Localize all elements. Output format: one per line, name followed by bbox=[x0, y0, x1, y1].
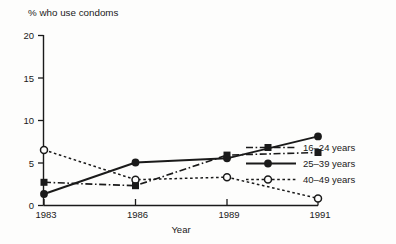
legend-label: 16–24 years bbox=[303, 142, 356, 153]
legend-marker-circle-icon bbox=[264, 160, 272, 168]
legend-marker-open-circle-icon bbox=[265, 176, 272, 183]
x-tick-labels: 1983 1986 1989 1991 bbox=[35, 209, 330, 220]
legend-label: 25–39 years bbox=[303, 158, 356, 169]
legend-item-40-49-years[interactable]: 40–49 years bbox=[246, 174, 356, 185]
y-tick-label: 0 bbox=[29, 200, 34, 211]
x-axis-label: Year bbox=[171, 224, 190, 235]
x-tick-label: 1983 bbox=[35, 209, 56, 220]
data-point bbox=[132, 182, 139, 189]
y-tick-label: 5 bbox=[29, 158, 34, 169]
x-tick-label: 1991 bbox=[309, 209, 330, 220]
chart-legend: 16–24 years 25–39 years 40–49 years bbox=[246, 142, 356, 185]
x-tick-label: 1989 bbox=[218, 209, 239, 220]
line-chart-canvas: 20 15 10 5 0 1983 1986 1989 1991 % who u… bbox=[0, 0, 396, 244]
y-tick-label: 10 bbox=[23, 115, 34, 126]
data-point bbox=[132, 159, 140, 167]
markers-40-49-years bbox=[41, 146, 322, 202]
series-25-39-years bbox=[44, 136, 318, 194]
data-point bbox=[224, 174, 231, 181]
data-point bbox=[40, 190, 48, 198]
data-point bbox=[315, 195, 322, 202]
legend-label: 40–49 years bbox=[303, 174, 356, 185]
x-axis-ticks bbox=[44, 199, 318, 206]
series-line-40-49-years bbox=[44, 150, 318, 199]
y-tick-label: 20 bbox=[23, 30, 34, 41]
data-point bbox=[223, 154, 231, 162]
data-point bbox=[314, 133, 322, 141]
data-point bbox=[41, 179, 48, 186]
data-point bbox=[132, 176, 139, 183]
series-40-49-years bbox=[44, 150, 318, 199]
markers-25-39-years bbox=[40, 133, 322, 198]
legend-item-16-24-years[interactable]: 16–24 years bbox=[246, 142, 356, 153]
axes-group bbox=[38, 35, 318, 206]
chart-title: % who use condoms bbox=[28, 7, 118, 18]
legend-marker-square-icon bbox=[265, 144, 272, 151]
y-tick-labels: 20 15 10 5 0 bbox=[23, 30, 34, 211]
series-line-25-39-years bbox=[44, 136, 318, 194]
y-tick-label: 15 bbox=[23, 73, 34, 84]
chart-figure: 20 15 10 5 0 1983 1986 1989 1991 % who u… bbox=[0, 0, 396, 244]
legend-item-25-39-years[interactable]: 25–39 years bbox=[246, 158, 356, 169]
data-point bbox=[41, 146, 48, 153]
x-tick-label: 1986 bbox=[127, 209, 148, 220]
